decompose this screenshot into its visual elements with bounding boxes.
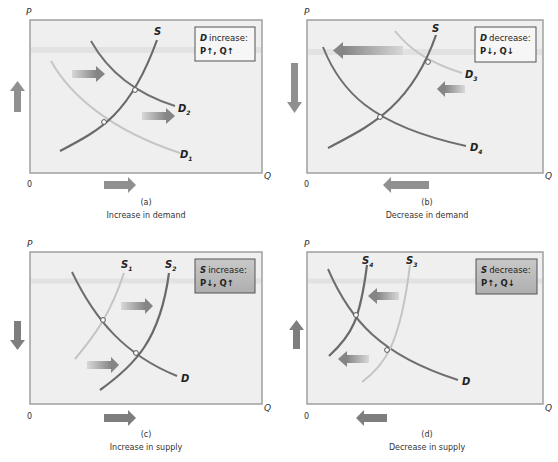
p-axis-label: P (26, 7, 32, 17)
annotation-line2: P↓, Q↑ (200, 278, 234, 288)
panel-letter: (b) (421, 198, 432, 207)
panel-letter: (a) (140, 198, 151, 207)
panel-caption: Decrease in supply (389, 443, 466, 452)
equilibrium-point-new (134, 351, 139, 356)
panel-caption: Decrease in demand (386, 211, 469, 220)
equilibrium-point-new (378, 115, 383, 120)
panel-caption: Increase in supply (110, 443, 183, 452)
supply-label: S (154, 26, 161, 37)
origin-label: 0 (27, 180, 32, 189)
panel-caption: Increase in demand (106, 211, 185, 220)
p-axis-label: P (304, 7, 310, 17)
quantity-left-arrow-icon (356, 410, 387, 426)
price-up-arrow-icon (10, 81, 25, 112)
panel-c: P Q 0 S1 S2 D Sincrease (10, 239, 271, 452)
quantity-right-arrow-icon (104, 177, 136, 193)
panel-b: P Q 0 S D3 D4 Ddecrease (287, 7, 552, 220)
q-axis-label: Q (264, 403, 271, 413)
panel-letter: (c) (141, 430, 152, 439)
demand-label: D (181, 373, 189, 384)
origin-label: 0 (304, 180, 309, 189)
price-up-arrow-icon (289, 320, 304, 349)
demand-label: D (462, 376, 470, 387)
annotation-line2: P↓, Q↓ (480, 46, 514, 56)
supply-label: S (432, 23, 439, 34)
quantity-right-arrow-icon (104, 410, 136, 426)
annotation-box: Sincrease: P↓, Q↑ (195, 259, 255, 293)
annotation-box: Dincrease: P↑, Q↑ (195, 27, 255, 61)
origin-label: 0 (27, 412, 32, 421)
annotation-line2: P↑, Q↓ (481, 278, 515, 288)
price-down-arrow-icon (287, 63, 302, 113)
panel-a: P Q 0 S D2 D1 (10, 7, 271, 220)
q-axis-label: Q (545, 403, 552, 413)
equilibrium-point-new (133, 88, 138, 93)
price-down-arrow-icon (10, 321, 25, 350)
equilibrium-point-initial (101, 318, 106, 323)
equilibrium-point-initial (102, 120, 107, 125)
panel-d: P Q 0 S4 S3 D Sdecrease (289, 239, 552, 452)
equilibrium-point-initial (426, 60, 431, 65)
panel-letter: (d) (421, 430, 432, 439)
p-axis-label: P (27, 239, 33, 249)
annotation-line1: Sdecrease: (481, 265, 531, 275)
p-axis-label: P (304, 239, 310, 249)
annotation-box: Sdecrease: P↑, Q↓ (476, 259, 537, 294)
annotation-line2: P↑, Q↑ (200, 46, 234, 56)
equilibrium-point-initial (385, 348, 390, 353)
q-axis-label: Q (545, 171, 552, 181)
equilibrium-point-new (354, 313, 359, 318)
figure-canvas: P Q 0 S D2 D1 (0, 0, 558, 462)
q-axis-label: Q (264, 171, 271, 181)
origin-label: 0 (304, 412, 309, 421)
annotation-box: Ddecrease: P↓, Q↓ (475, 27, 536, 62)
quantity-left-arrow-icon (383, 177, 429, 193)
